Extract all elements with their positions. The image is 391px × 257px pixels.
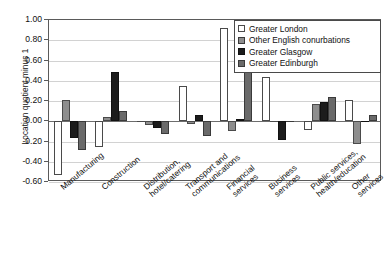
x-axis-category-label: Manufacturing xyxy=(59,151,106,192)
legend-item: Greater Glasgow xyxy=(238,46,376,58)
legend-item-label: Greater Glasgow xyxy=(249,47,312,57)
legend-item-label: Greater Edinburgh xyxy=(249,58,318,68)
legend-swatch-icon xyxy=(238,60,245,67)
x-axis-category-label: Construction xyxy=(100,155,142,192)
legend-swatch-icon xyxy=(238,37,245,44)
legend-item-label: Greater London xyxy=(249,24,308,34)
legend-item: Greater London xyxy=(238,23,376,35)
x-axis-category-label: Business services xyxy=(267,163,305,199)
legend-item-label: Other English conurbations xyxy=(249,35,350,45)
legend-swatch-icon xyxy=(238,25,245,32)
chart-legend: Greater LondonOther English conurbations… xyxy=(234,20,381,73)
legend-item: Greater Edinburgh xyxy=(238,58,376,70)
legend-swatch-icon xyxy=(238,48,245,55)
bar-chart: Location quotient minus 1 1.000.800.600.… xyxy=(0,0,391,257)
legend-item: Other English conurbations xyxy=(238,35,376,47)
x-axis-category-label: Distribution, hotel/catering xyxy=(142,153,193,200)
